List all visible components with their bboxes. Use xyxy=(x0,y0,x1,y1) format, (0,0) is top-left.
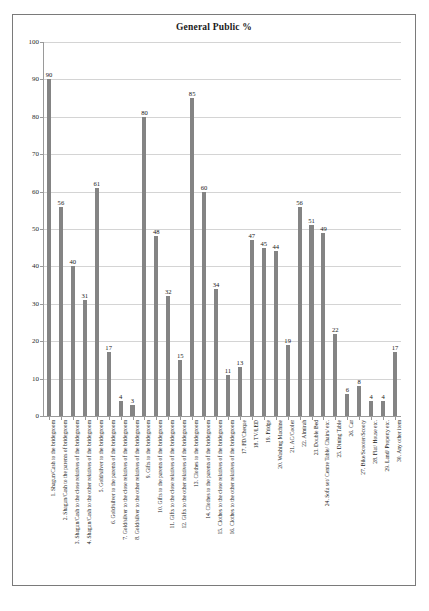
bar[interactable] xyxy=(393,352,397,416)
category-labels: 1. Shagun/Cash to the bridegroom2. Shagu… xyxy=(43,417,401,577)
bar[interactable] xyxy=(345,394,349,416)
bar-value-label: 31 xyxy=(81,292,88,299)
bar[interactable] xyxy=(83,300,87,416)
bar[interactable] xyxy=(381,401,385,416)
bar[interactable] xyxy=(286,345,290,416)
x-axis-category-label: 28. Flat/ House etc. xyxy=(373,420,379,464)
bar[interactable] xyxy=(130,405,134,416)
bar-value-label: 56 xyxy=(296,199,303,206)
y-axis-tick-label: 90 xyxy=(32,75,39,83)
bar-value-label: 4 xyxy=(381,393,384,400)
x-axis-category-label: 11. Gifts to the close relatives of the … xyxy=(170,420,176,528)
bar[interactable] xyxy=(250,240,254,416)
x-axis-category-label: 9. Gifts to the bridegroom xyxy=(146,420,152,478)
y-axis-tick-label: 40 xyxy=(32,262,39,270)
bar[interactable] xyxy=(226,375,230,416)
bar[interactable] xyxy=(309,225,313,416)
x-axis-category-label: 30. Any other item xyxy=(397,420,403,462)
bar[interactable] xyxy=(107,352,111,416)
bar-value-label: 19 xyxy=(284,337,291,344)
bar[interactable] xyxy=(274,251,278,416)
bar-value-label: 11 xyxy=(225,367,231,374)
bar[interactable] xyxy=(238,367,242,416)
bar-value-label: 13 xyxy=(237,359,244,366)
y-axis-tick-label: 80 xyxy=(32,113,39,121)
bar-value-label: 17 xyxy=(105,344,112,351)
x-axis-category-label: 21. AC/Cooler xyxy=(290,420,296,453)
bar-value-label: 40 xyxy=(70,258,77,265)
bar-value-label: 90 xyxy=(46,71,53,78)
x-axis-category-label: 4. Shagun/Cash to the other relatives of… xyxy=(87,420,93,544)
bar-value-label: 32 xyxy=(165,288,172,295)
bar[interactable] xyxy=(190,98,194,416)
x-axis-category-label: 22. Almirah xyxy=(302,420,308,447)
x-axis-category-label: 8. Gold/silver to the other relatives of… xyxy=(135,420,141,540)
bar[interactable] xyxy=(357,386,361,416)
x-axis-category-label: 10. Gifts to the parents of the bridegro… xyxy=(158,420,164,513)
bar-value-label: 22 xyxy=(332,326,339,333)
x-axis-category-label: 7. Gold/silver to the close relatives of… xyxy=(123,420,129,540)
bar[interactable] xyxy=(154,236,158,416)
x-axis-category-label: 19. Fridge xyxy=(266,420,272,443)
x-axis-category-label: 27. Bike/Scooter/Scooty xyxy=(361,420,367,475)
x-axis-category-label: 24. Sofa set/ Centre Table/ Chairs/ etc. xyxy=(325,420,331,506)
x-axis-category-label: 23. Double Bed xyxy=(314,420,320,455)
bar-value-label: 8 xyxy=(358,378,361,385)
bar-value-label: 34 xyxy=(213,281,220,288)
bar[interactable] xyxy=(166,296,170,416)
y-axis-tick-label: 0 xyxy=(36,412,40,420)
bar[interactable] xyxy=(47,79,51,416)
x-axis-category-label: 13. Clothes to the bridegroom xyxy=(194,420,200,487)
y-axis-tick-label: 10 xyxy=(32,375,39,383)
bar-value-label: 4 xyxy=(119,393,122,400)
bar-value-label: 44 xyxy=(272,243,279,250)
x-axis-category-label: 18. TV/LED xyxy=(254,420,260,448)
chart-frame: General Public % 0102030405060708090100 … xyxy=(12,14,416,586)
bar[interactable] xyxy=(71,266,75,416)
bar[interactable] xyxy=(321,233,325,416)
x-axis-category-label: 6. Gold/silver to the parents of the bri… xyxy=(111,420,117,524)
bar[interactable] xyxy=(59,207,63,416)
bar-value-label: 56 xyxy=(58,199,65,206)
bar-value-label: 6 xyxy=(346,386,349,393)
bar[interactable] xyxy=(298,207,302,416)
x-axis-category-label: 26. Car xyxy=(349,420,355,436)
bar-value-label: 60 xyxy=(201,184,208,191)
bar-value-label: 4 xyxy=(370,393,373,400)
chart-title: General Public % xyxy=(13,22,415,32)
bar-value-label: 3 xyxy=(131,397,134,404)
bar-value-label: 48 xyxy=(153,228,160,235)
bar[interactable] xyxy=(202,192,206,416)
bar-value-label: 49 xyxy=(320,225,327,232)
x-axis-category-label: 3. Shagun/Cash to the close relatives of… xyxy=(75,420,81,544)
y-axis-tick-label: 100 xyxy=(29,38,40,46)
bar-value-label: 17 xyxy=(392,344,399,351)
bar[interactable] xyxy=(369,401,373,416)
x-axis-category-label: 15. Clothes to the close relatives of th… xyxy=(218,420,224,535)
bar-value-label: 80 xyxy=(141,109,148,116)
x-axis-category-label: 25. Dining Table xyxy=(337,420,343,458)
bar[interactable] xyxy=(119,401,123,416)
x-axis-category-label: 5. Gold/silver to the bridegroom xyxy=(99,420,105,492)
x-axis-category-label: 17. FD/Cheque xyxy=(242,420,248,454)
bar-value-label: 61 xyxy=(93,180,100,187)
bar[interactable] xyxy=(178,360,182,416)
bars-layer: 9056403161174380483215856034111347454419… xyxy=(43,42,401,416)
bar[interactable] xyxy=(142,117,146,416)
x-axis-category-label: 1. Shagun/Cash to the bridegroom xyxy=(51,420,57,497)
y-axis-tick-label: 30 xyxy=(32,300,39,308)
bar[interactable] xyxy=(333,334,337,416)
x-axis-category-label: 12. Gifts to the other relatives of the … xyxy=(182,420,188,529)
bar-value-label: 47 xyxy=(249,232,256,239)
y-axis-tick-label: 60 xyxy=(32,188,39,196)
bar-value-label: 15 xyxy=(177,352,184,359)
bar[interactable] xyxy=(262,248,266,416)
x-axis-category-label: 2. Shagun/Cash to the parents of bridegr… xyxy=(63,420,69,520)
y-axis-tick-label: 50 xyxy=(32,225,39,233)
x-axis-category-label: 16. Clothes to the other relatives of th… xyxy=(230,420,236,535)
bar-value-label: 85 xyxy=(189,90,196,97)
bar-value-label: 51 xyxy=(308,217,315,224)
bar[interactable] xyxy=(214,289,218,416)
bar[interactable] xyxy=(95,188,99,416)
y-axis-tick-label: 70 xyxy=(32,150,39,158)
